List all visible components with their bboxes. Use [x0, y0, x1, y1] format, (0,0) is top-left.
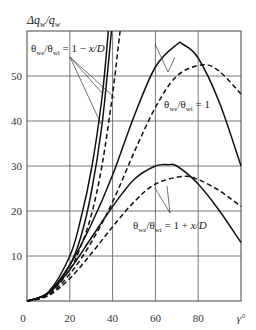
y-tick-label: 10: [11, 250, 23, 262]
y-tick-label: 20: [11, 205, 23, 217]
y-tick-label: 40: [11, 115, 23, 127]
x-tick-label: 0: [20, 312, 26, 324]
x-tick-label: 80: [193, 312, 205, 324]
grid-lines: [27, 31, 241, 301]
y-tick-label: 50: [11, 70, 23, 82]
annotation-mid: θwe/θwi = 1: [164, 98, 210, 113]
x-tick-label: 40: [107, 312, 119, 324]
annotation-top: θwe/θwi = 1 − x/D: [31, 42, 105, 57]
x-tick-label: 60: [150, 312, 162, 324]
annotation-leaders: [70, 44, 175, 213]
series-line: [27, 42, 241, 301]
x-tick-label: 20: [64, 312, 76, 324]
y-axis-label: Δqw/qw: [26, 13, 61, 29]
y-tick-label: 30: [11, 160, 23, 172]
x-tick-label: γ°: [237, 312, 246, 324]
tick-labels: 020406080γ°1020304050: [11, 70, 246, 324]
annotation-low: θwe/θwi = 1 + x/D: [133, 219, 207, 234]
line-chart: 020406080γ°1020304050 Δqw/qw θwe/θwi = 1…: [0, 0, 256, 330]
